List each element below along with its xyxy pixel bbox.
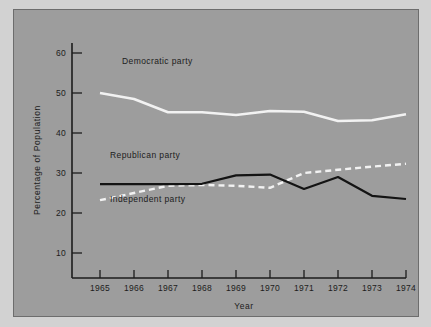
series-annotation-republican-party: Republican party (110, 150, 181, 160)
x-tick-marks (100, 270, 406, 278)
chart-figure: 60 50 40 30 20 10 1965 1966 1967 (0, 0, 431, 327)
y-axis-title: Percentage of Population (32, 105, 42, 215)
x-tick-label-1974: 1974 (396, 283, 416, 293)
chart-panel: 60 50 40 30 20 10 1965 1966 1967 (13, 9, 419, 317)
line-chart-svg: 60 50 40 30 20 10 1965 1966 1967 (14, 10, 419, 317)
y-tick-label-40: 40 (56, 128, 66, 138)
x-tick-label-1971: 1971 (294, 283, 314, 293)
y-tick-label-60: 60 (56, 48, 66, 58)
x-tick-label-1973: 1973 (362, 283, 382, 293)
x-axis-title: Year (234, 301, 254, 311)
y-tick-label-30: 30 (56, 168, 66, 178)
series-annotation-democratic-party: Democratic party (122, 56, 193, 66)
series-annotation-independent-party: Independent party (110, 194, 186, 204)
series-line-democratic-party (100, 93, 406, 121)
x-tick-label-1969: 1969 (226, 283, 246, 293)
x-tick-label-1970: 1970 (260, 283, 280, 293)
x-tick-label-1966: 1966 (124, 283, 144, 293)
y-tick-label-50: 50 (56, 88, 66, 98)
y-tick-marks (72, 53, 82, 253)
y-tick-label-20: 20 (56, 208, 66, 218)
x-tick-label-1967: 1967 (158, 283, 178, 293)
x-tick-label-1968: 1968 (192, 283, 212, 293)
x-tick-label-1965: 1965 (90, 283, 110, 293)
x-tick-label-1972: 1972 (328, 283, 348, 293)
y-tick-label-10: 10 (56, 248, 66, 258)
